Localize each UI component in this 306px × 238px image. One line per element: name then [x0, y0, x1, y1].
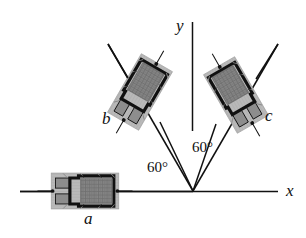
x-axis-label: x — [286, 182, 294, 199]
diagram-svg — [0, 0, 306, 238]
angle-label-left: 60° — [147, 160, 168, 175]
device-label-a: a — [84, 210, 93, 227]
device-label-b: b — [102, 110, 111, 127]
device-b — [101, 42, 180, 142]
angle-label-right: 60° — [192, 140, 213, 155]
y-axis-label: y — [176, 17, 184, 34]
device-label-c: c — [265, 107, 273, 124]
device-c — [197, 45, 276, 145]
figure-canvas: y x 60° 60° a b c — [0, 0, 306, 238]
